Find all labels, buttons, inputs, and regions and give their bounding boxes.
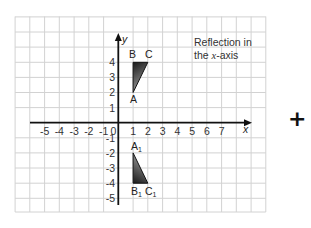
svg-text:3: 3 [160,125,166,137]
svg-text:7: 7 [219,125,225,137]
svg-text:the x-axis: the x-axis [194,49,238,61]
vertex-label-a1: A1 [131,140,142,153]
vertex-label-c: C [145,48,153,60]
svg-text:-2: -2 [106,147,115,159]
y-axis-arrow-icon [115,33,122,41]
svg-text:-3: -3 [106,162,115,174]
svg-text:-2: -2 [84,125,93,137]
svg-text:-3: -3 [69,125,78,137]
svg-text:-4: -4 [106,177,115,189]
annotation-text: Reflection in the x-axis [192,33,252,61]
svg-text:2: 2 [109,86,115,98]
vertex-label-b: B [129,48,136,60]
x-tick-labels: -5 -4 -3 -2 -1 0 1 2 3 4 5 6 7 [40,125,225,137]
svg-text:4: 4 [174,125,180,137]
triangle-a1b1c1: A1 B1 C1 [131,140,157,198]
triangle-abc: B C A [129,48,153,105]
coordinate-grid-diagram: x y -5 -4 -3 -2 -1 0 1 2 3 4 5 6 7 1 2 3… [0,0,311,228]
svg-text:-5: -5 [40,125,49,137]
svg-text:1: 1 [130,125,136,137]
y-axis-label: y [121,33,128,45]
svg-text:2: 2 [145,125,151,137]
vertex-label-a: A [130,93,137,105]
svg-text:-4: -4 [55,125,64,137]
svg-text:-1: -1 [106,132,115,144]
svg-text:3: 3 [109,71,115,83]
svg-text:5: 5 [189,125,195,137]
vertex-label-b1: B1 [131,185,142,198]
svg-text:1: 1 [109,102,115,114]
svg-text:Reflection in: Reflection in [194,36,252,48]
svg-text:4: 4 [109,56,115,68]
svg-text:-5: -5 [106,192,115,204]
vertex-label-c1: C1 [145,185,157,198]
svg-text:6: 6 [204,125,210,137]
plus-button[interactable]: + [288,108,306,130]
x-axis-label: x [242,123,249,135]
